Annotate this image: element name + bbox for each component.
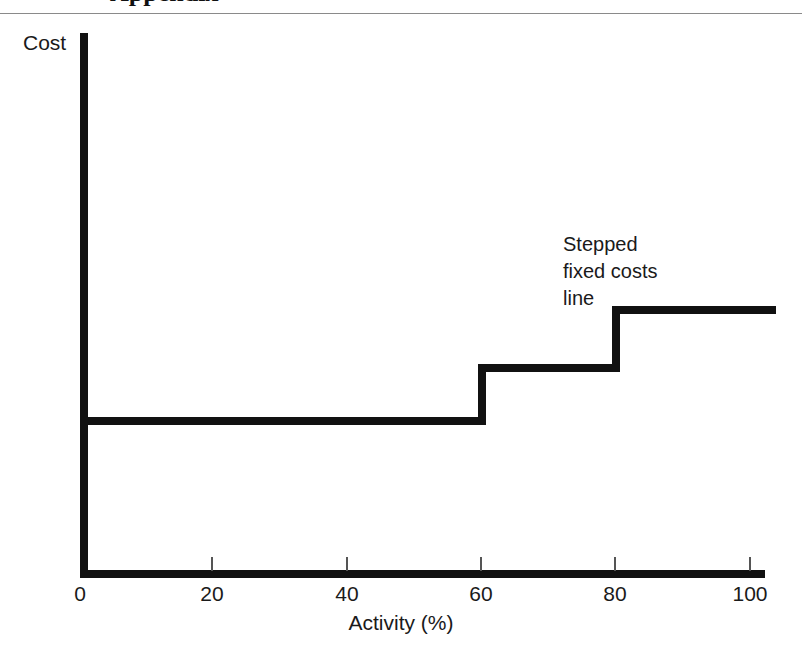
y-axis-line <box>80 33 88 578</box>
x-tick-label-60: 60 <box>451 582 511 606</box>
series-annotation-line-2: fixed costs <box>563 258 657 285</box>
x-tick-label-40: 40 <box>317 582 377 606</box>
x-tick-label-100: 100 <box>720 582 780 606</box>
series-annotation-line-1: Stepped <box>563 231 657 258</box>
chart-page: Appendix Cost Activity (%) 0 20 40 60 <box>0 0 802 669</box>
stepped-fixed-costs-line <box>80 310 776 421</box>
x-axis-ticks <box>211 557 751 571</box>
x-tick-label-80: 80 <box>585 582 645 606</box>
series-annotation-line-3: line <box>563 285 657 312</box>
x-tick-label-0: 0 <box>50 582 110 606</box>
x-axis-line <box>80 570 765 578</box>
x-tick-label-20: 20 <box>182 582 242 606</box>
series-annotation: Stepped fixed costs line <box>563 231 657 312</box>
chart-svg <box>0 0 802 669</box>
stepped-fixed-costs-chart <box>0 0 802 669</box>
y-axis-title: Cost <box>23 31 66 55</box>
x-axis-title: Activity (%) <box>0 611 802 635</box>
